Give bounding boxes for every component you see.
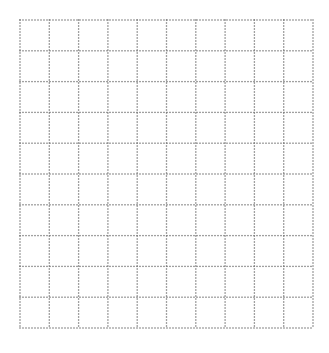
vertical-grid-line — [137, 19, 138, 326]
vertical-grid-line — [195, 19, 196, 326]
vertical-grid-line — [49, 19, 50, 326]
vertical-grid-line — [19, 19, 20, 326]
vertical-grid-line — [166, 19, 167, 326]
vertical-grid-line — [283, 19, 284, 326]
vertical-grid-line — [312, 19, 313, 326]
vertical-grid-line — [224, 19, 225, 326]
vertical-grid-line — [78, 19, 79, 326]
vertical-grid-line — [107, 19, 108, 326]
dotted-grid — [0, 0, 329, 353]
vertical-grid-line — [254, 19, 255, 326]
